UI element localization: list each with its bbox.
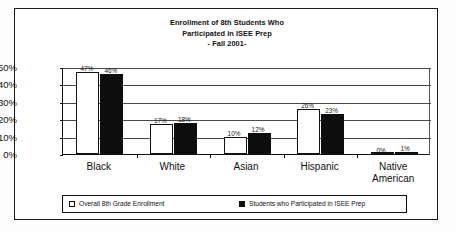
bar[interactable]: [76, 72, 99, 154]
bar-value-label: 1%: [390, 145, 421, 152]
bar-value-label: 18%: [169, 116, 200, 123]
x-axis-category-label-line: Asian: [209, 161, 283, 173]
y-axis-tick-mark: [60, 85, 64, 86]
x-axis-tick-mark: [137, 154, 138, 158]
y-axis-tick-mark: [60, 155, 64, 156]
bar[interactable]: [321, 114, 344, 154]
chart-title-line-1: Enrollment of 8th Students Who: [15, 18, 439, 29]
chart-title: Enrollment of 8th Students Who Participa…: [15, 18, 439, 50]
bar-value-label: 46%: [95, 67, 126, 74]
chart-title-line-3: - Fall 2001-: [15, 39, 439, 50]
y-axis-tick-mark: [60, 120, 64, 121]
x-axis-category-label-line: Hispanic: [283, 161, 357, 173]
legend-label: Overall 8th Grade Enrollment: [79, 200, 164, 208]
bar[interactable]: [248, 133, 271, 154]
y-axis-tick-label: 10%: [0, 133, 17, 142]
bar-value-label: 12%: [243, 126, 274, 133]
plot-area: [62, 68, 430, 155]
bar[interactable]: [174, 123, 197, 154]
legend-entry[interactable]: Students who Participated in ISEE Prep: [239, 200, 365, 208]
bar[interactable]: [297, 109, 320, 154]
bar[interactable]: [224, 137, 247, 154]
legend-label: Students who Participated in ISEE Prep: [249, 200, 365, 208]
y-axis-tick-label: 0%: [0, 150, 17, 159]
legend-swatch-icon: [239, 201, 245, 207]
y-axis-tick-label: 40%: [0, 80, 17, 89]
chart-frame: Enrollment of 8th Students Who Participa…: [14, 8, 438, 220]
x-axis-category-label-line: Black: [62, 161, 136, 173]
x-axis-tick-mark: [284, 154, 285, 158]
bar[interactable]: [150, 124, 173, 154]
x-axis-tick-mark: [210, 154, 211, 158]
y-axis-tick-label: 30%: [0, 98, 17, 107]
chart-title-line-2: Participated in ISEE Prep: [15, 29, 439, 40]
y-axis-tick-label: 50%: [0, 63, 17, 72]
y-axis-tick-mark: [60, 103, 64, 104]
legend-swatch-icon: [69, 201, 75, 207]
chart-screenshot: Enrollment of 8th Students Who Participa…: [0, 0, 456, 232]
x-axis-tick-mark: [357, 154, 358, 158]
y-axis-tick-label: 20%: [0, 115, 17, 124]
bar-value-label: 23%: [316, 107, 347, 114]
y-axis-tick-mark: [60, 138, 64, 139]
x-axis-category-label: Hispanic: [283, 161, 357, 173]
x-axis-category-label: Black: [62, 161, 136, 173]
x-axis-category-label: White: [136, 161, 210, 173]
y-axis-tick-mark: [60, 68, 64, 69]
bar[interactable]: [100, 74, 123, 154]
chart-legend: Overall 8th Grade EnrollmentStudents who…: [62, 195, 407, 213]
x-axis-category-label-line: Native: [356, 161, 430, 173]
x-axis-category-label: NativeAmerican: [356, 161, 430, 184]
plot-right-border: [429, 68, 430, 155]
x-axis-category-label-line: White: [136, 161, 210, 173]
legend-entry[interactable]: Overall 8th Grade Enrollment: [69, 200, 164, 208]
x-axis-category-label: Asian: [209, 161, 283, 173]
x-axis-category-label-line: American: [356, 173, 430, 185]
bar[interactable]: [395, 152, 418, 154]
